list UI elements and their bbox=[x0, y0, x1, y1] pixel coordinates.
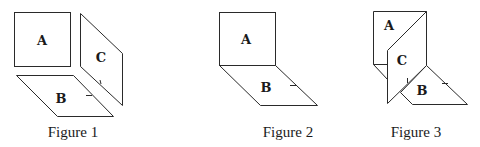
figure-1-label-b: B bbox=[56, 91, 67, 106]
folding-figures-diagram: A C B Figure 1 A B Figure 2 A B C Fi bbox=[0, 0, 480, 147]
figure-1-caption: Figure 1 bbox=[48, 124, 98, 140]
figure-3-flap bbox=[374, 65, 388, 80]
figure-3-label-c: C bbox=[397, 53, 407, 68]
figure-1-label-c: C bbox=[96, 50, 106, 65]
figure-3-caption: Figure 3 bbox=[391, 124, 441, 140]
figure-3-label-a: A bbox=[383, 18, 395, 33]
figure-2: A B Figure 2 bbox=[220, 13, 318, 141]
figure-3: A B C Figure 3 bbox=[374, 12, 468, 141]
figure-2-label-a: A bbox=[240, 32, 252, 47]
figure-1: A C B Figure 1 bbox=[15, 13, 123, 141]
figure-2-caption: Figure 2 bbox=[263, 124, 313, 140]
figure-2-label-b: B bbox=[261, 80, 272, 95]
figure-3-label-b: B bbox=[417, 83, 428, 98]
figure-1-label-a: A bbox=[36, 33, 48, 48]
